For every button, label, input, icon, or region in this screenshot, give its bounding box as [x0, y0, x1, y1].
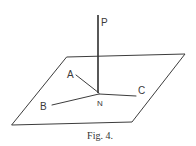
- label-b: B: [40, 101, 47, 112]
- label-n: N: [97, 99, 103, 108]
- geometry-figure: P A B C N Fig. 4.: [0, 0, 196, 146]
- line-nc: [99, 94, 136, 96]
- figure-caption: Fig. 4.: [87, 130, 113, 141]
- label-p: P: [101, 17, 108, 28]
- line-na: [76, 75, 99, 93]
- label-a: A: [67, 69, 74, 80]
- label-c: C: [138, 85, 145, 96]
- line-nb: [52, 94, 99, 105]
